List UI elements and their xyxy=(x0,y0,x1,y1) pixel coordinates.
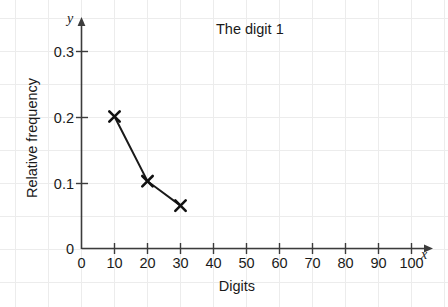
x-axis-letter: x xyxy=(421,247,427,263)
x-axis-label: Digits xyxy=(0,278,448,294)
data-series-line xyxy=(115,117,181,206)
data-point-marker xyxy=(109,111,119,121)
y-tick-label-0: 0 xyxy=(18,242,74,257)
data-point-marker xyxy=(142,176,152,186)
data-point-markers xyxy=(109,111,185,211)
data-point-marker xyxy=(175,200,185,210)
x-axis xyxy=(82,245,434,253)
chart-title: The digit 1 xyxy=(216,21,284,37)
x-axis-label-text: Digits xyxy=(219,278,255,294)
y-axis-label: Relative frequency xyxy=(24,53,40,223)
y-axis-letter: y xyxy=(67,11,73,27)
chart-figure: 0.3 0.2 0.1 0 0 10 20 30 40 50 60 70 80 … xyxy=(0,0,448,307)
